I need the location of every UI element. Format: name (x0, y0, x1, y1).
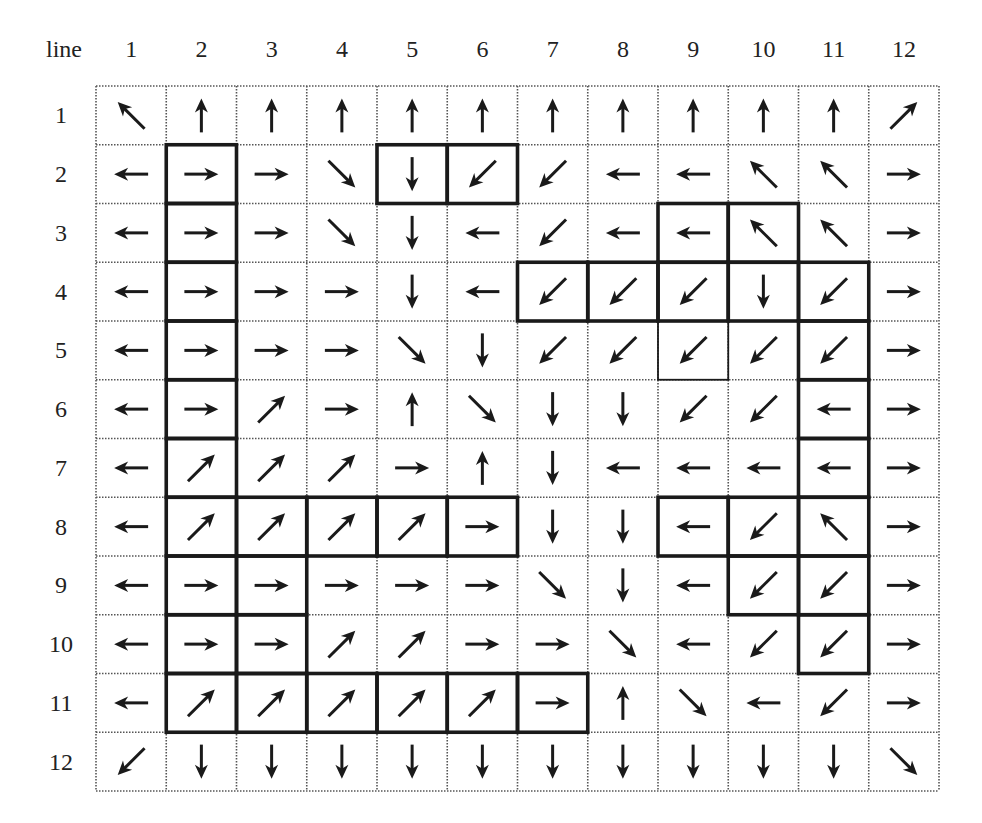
down-left-arrow-icon (675, 332, 711, 368)
right-arrow-icon (536, 696, 570, 709)
up-right-arrow-icon (886, 97, 922, 133)
down-arrow-icon (406, 216, 419, 250)
down-left-arrow-icon (675, 274, 711, 310)
right-arrow-icon (255, 579, 289, 592)
up-arrow-icon (406, 392, 419, 426)
left-arrow-icon (606, 226, 640, 239)
up-right-arrow-icon (254, 391, 290, 427)
right-arrow-icon (887, 226, 921, 239)
down-arrow-icon (546, 745, 559, 779)
up-left-arrow-icon (816, 215, 852, 251)
up-arrow-icon (616, 686, 629, 720)
down-left-arrow-icon (816, 567, 852, 603)
down-left-arrow-icon (816, 332, 852, 368)
up-arrow-icon (335, 98, 348, 132)
down-arrow-icon (616, 392, 629, 426)
right-arrow-icon (325, 344, 359, 357)
up-right-arrow-icon (324, 626, 360, 662)
down-left-arrow-icon (745, 332, 781, 368)
down-arrow-icon (546, 510, 559, 544)
right-arrow-icon (887, 696, 921, 709)
right-arrow-icon (184, 285, 218, 298)
arrow-grid-figure: line 123456789101112 123456789101112 (0, 0, 982, 823)
right-arrow-icon (887, 168, 921, 181)
left-arrow-icon (746, 696, 780, 709)
left-arrow-icon (114, 168, 148, 181)
down-arrow-icon (827, 745, 840, 779)
up-arrow-icon (406, 98, 419, 132)
up-right-arrow-icon (254, 509, 290, 545)
right-arrow-icon (184, 344, 218, 357)
down-left-arrow-icon (605, 274, 641, 310)
down-arrow-icon (757, 745, 770, 779)
down-right-arrow-icon (886, 744, 922, 780)
right-arrow-icon (184, 638, 218, 651)
up-arrow-icon (827, 98, 840, 132)
right-arrow-icon (184, 226, 218, 239)
down-right-arrow-icon (464, 391, 500, 427)
down-left-arrow-icon (745, 626, 781, 662)
down-left-arrow-icon (675, 391, 711, 427)
up-right-arrow-icon (394, 626, 430, 662)
left-arrow-icon (606, 461, 640, 474)
down-left-arrow-icon (535, 274, 571, 310)
down-left-arrow-icon (535, 156, 571, 192)
left-arrow-icon (114, 344, 148, 357)
left-arrow-icon (606, 168, 640, 181)
up-right-arrow-icon (324, 685, 360, 721)
up-right-arrow-icon (464, 685, 500, 721)
up-right-arrow-icon (183, 450, 219, 486)
down-right-arrow-icon (324, 156, 360, 192)
right-arrow-icon (184, 579, 218, 592)
down-left-arrow-icon (605, 332, 641, 368)
down-arrow-icon (476, 333, 489, 367)
up-arrow-icon (546, 98, 559, 132)
down-arrow-icon (406, 157, 419, 191)
down-left-arrow-icon (535, 215, 571, 251)
right-arrow-icon (887, 520, 921, 533)
down-right-arrow-icon (394, 332, 430, 368)
down-arrow-icon (546, 392, 559, 426)
up-arrow-icon (195, 98, 208, 132)
right-arrow-icon (184, 403, 218, 416)
up-right-arrow-icon (394, 685, 430, 721)
down-left-arrow-icon (745, 509, 781, 545)
up-right-arrow-icon (183, 685, 219, 721)
left-arrow-icon (676, 579, 710, 592)
right-arrow-icon (395, 461, 429, 474)
down-arrow-icon (476, 745, 489, 779)
down-arrow-icon (546, 451, 559, 485)
up-arrow-icon (616, 98, 629, 132)
right-arrow-icon (255, 226, 289, 239)
up-arrow-icon (476, 451, 489, 485)
left-arrow-icon (114, 226, 148, 239)
left-arrow-icon (465, 226, 499, 239)
right-arrow-icon (325, 285, 359, 298)
up-right-arrow-icon (324, 450, 360, 486)
left-arrow-icon (114, 403, 148, 416)
left-arrow-icon (676, 520, 710, 533)
left-arrow-icon (114, 520, 148, 533)
right-arrow-icon (465, 638, 499, 651)
up-arrow-icon (687, 98, 700, 132)
left-arrow-icon (114, 579, 148, 592)
up-arrow-icon (476, 98, 489, 132)
down-right-arrow-icon (605, 626, 641, 662)
right-arrow-icon (465, 579, 499, 592)
down-arrow-icon (616, 510, 629, 544)
right-arrow-icon (255, 285, 289, 298)
left-arrow-icon (114, 638, 148, 651)
down-right-arrow-icon (675, 685, 711, 721)
down-arrow-icon (265, 745, 278, 779)
up-right-arrow-icon (254, 450, 290, 486)
left-arrow-icon (676, 168, 710, 181)
down-right-arrow-icon (535, 567, 571, 603)
down-left-arrow-icon (464, 156, 500, 192)
right-arrow-icon (395, 579, 429, 592)
down-left-arrow-icon (113, 744, 149, 780)
right-arrow-icon (887, 403, 921, 416)
right-arrow-icon (255, 344, 289, 357)
left-arrow-icon (114, 461, 148, 474)
down-arrow-icon (335, 745, 348, 779)
right-arrow-icon (184, 168, 218, 181)
